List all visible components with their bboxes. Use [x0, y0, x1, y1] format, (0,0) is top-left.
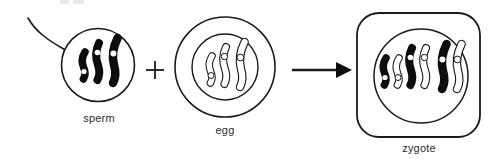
top-crop-artifact: [60, 0, 84, 4]
zygote-cell: [357, 13, 480, 137]
sperm-cell: [28, 18, 135, 102]
plus-operator: [146, 61, 164, 79]
arrow-right-icon: [292, 62, 352, 78]
egg-label: egg: [188, 124, 262, 136]
fertilization-diagram: sperm egg zygote: [0, 0, 494, 159]
egg-cell: [175, 17, 275, 117]
sperm-label: sperm: [62, 112, 136, 124]
zygote-label: zygote: [382, 142, 456, 154]
